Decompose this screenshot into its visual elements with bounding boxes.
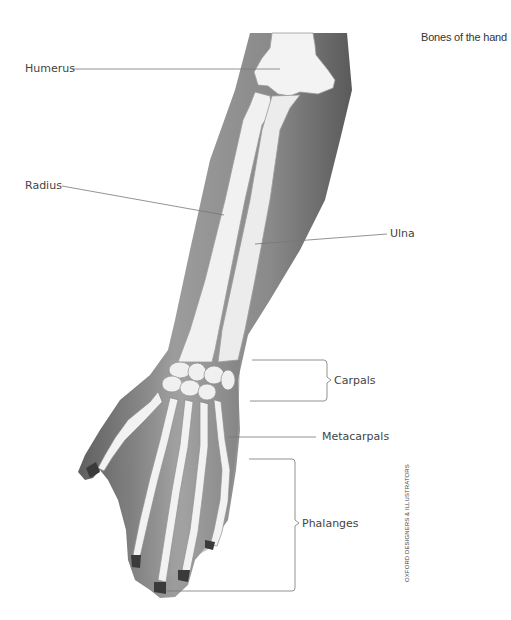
- arm-bones-illustration: [0, 0, 511, 620]
- label-metacarpals: Metacarpals: [322, 430, 389, 443]
- label-phalanges: Phalanges: [302, 517, 359, 530]
- label-carpals: Carpals: [334, 374, 375, 387]
- label-ulna: Ulna: [390, 227, 415, 240]
- illustrator-credit: OXFORD DESIGNERS & ILLUSTRATORS: [404, 464, 410, 582]
- label-humerus: Humerus: [25, 62, 75, 75]
- label-radius: Radius: [25, 179, 62, 192]
